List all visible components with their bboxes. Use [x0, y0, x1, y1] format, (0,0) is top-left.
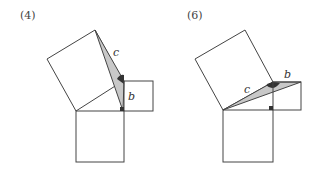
lower-square [76, 111, 124, 162]
right-angle-marker [120, 107, 124, 111]
tilted-square [195, 30, 273, 110]
side-b-label: b [128, 90, 135, 103]
shaded-triangle [95, 30, 124, 111]
side-c-label: c [113, 46, 119, 59]
pythagoras-diagram: (4) c b (6) c b [0, 0, 317, 174]
figure-6: (6) c b [187, 9, 301, 162]
figure-6-label: (6) [187, 9, 203, 22]
figure-4: (4) c b [20, 9, 153, 162]
side-b-label: b [284, 68, 291, 81]
right-angle-marker [269, 106, 273, 110]
shaded-triangle [223, 82, 301, 110]
side-c-label: c [244, 83, 250, 96]
lower-square [223, 110, 273, 162]
figure-4-label: (4) [20, 9, 36, 22]
